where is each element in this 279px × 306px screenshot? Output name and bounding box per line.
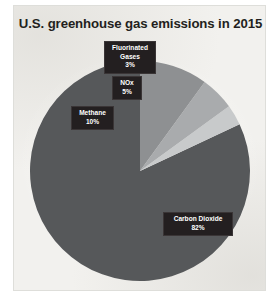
data-label-methane-value: 10% — [76, 118, 109, 127]
data-label-fluorinated-gases-line1: Fluorinated — [109, 44, 151, 53]
data-label-methane: Methane 10% — [71, 106, 114, 130]
data-label-methane-line1: Methane — [76, 109, 109, 118]
data-label-nox-value: 5% — [117, 88, 137, 97]
data-label-carbon-dioxide: Carbon Dioxide 82% — [163, 212, 233, 236]
chart-card: U.S. greenhouse gas emissions in 2015 Fl… — [13, 5, 266, 291]
data-label-carbon-dioxide-line1: Carbon Dioxide — [168, 215, 228, 224]
chart-title: U.S. greenhouse gas emissions in 2015 — [14, 17, 266, 32]
data-label-carbon-dioxide-value: 82% — [168, 224, 228, 233]
data-label-fluorinated-gases-value: 3% — [109, 61, 151, 70]
data-label-nox-line1: NOx — [117, 79, 137, 88]
scanned-page: U.S. greenhouse gas emissions in 2015 Fl… — [0, 0, 279, 306]
data-label-nox: NOx 5% — [112, 76, 142, 100]
data-label-fluorinated-gases-line2: Gases — [109, 53, 151, 62]
data-label-fluorinated-gases: Fluorinated Gases 3% — [104, 41, 156, 74]
